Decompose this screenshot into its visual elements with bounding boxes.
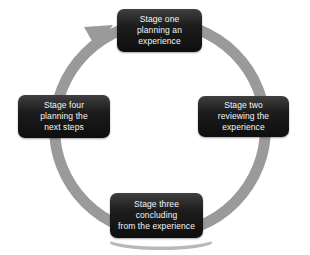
stage-two-box: Stage two reviewing the experience [198, 96, 289, 137]
stage-one-label: Stage one planning an experience [137, 14, 182, 47]
stage-four-box: Stage four planning the next steps [18, 95, 110, 138]
stage-four-label: Stage four planning the next steps [40, 100, 88, 133]
stage-two-label: Stage two reviewing the experience [218, 100, 269, 133]
stage-one-box: Stage one planning an experience [117, 9, 202, 52]
cycle-diagram: Stage one planning an experience Stage t… [0, 0, 310, 255]
stage-three-box: Stage three concluding from the experien… [110, 193, 203, 238]
stage-three-label: Stage three concluding from the experien… [118, 199, 195, 232]
